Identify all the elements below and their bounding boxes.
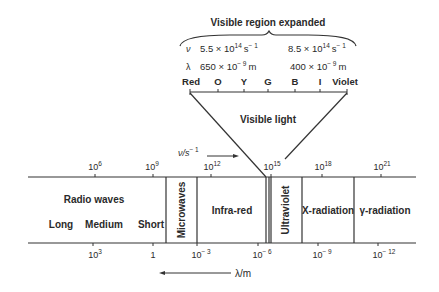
radio-sub-long: Long (49, 219, 73, 230)
wl-tick-1e-12: 10− 12 (373, 248, 396, 260)
color-label-violet: Violet (332, 76, 359, 87)
region-radio-waves: Radio waves (64, 194, 125, 205)
visible-scale (190, 89, 347, 95)
frequency-tick-labels: 106 109 1012 1015 1018 1021 (88, 160, 391, 172)
em-spectrum-diagram: Visible region expanded ν 5.5 × 1014s− 1… (0, 0, 439, 292)
region-microwaves: Microwaves (176, 181, 187, 238)
visible-funnel-left (190, 93, 266, 177)
freq-tick-1e9: 109 (145, 160, 159, 172)
lambda-red-value: 650 × 10− 9m (200, 60, 256, 72)
visible-funnel-right (285, 93, 347, 159)
wl-tick-1e3: 103 (88, 248, 102, 260)
region-xray: X-radiation (302, 205, 354, 216)
radio-sub-medium: Medium (85, 219, 123, 230)
nu-symbol: ν (186, 44, 191, 54)
freq-tick-1e18: 1018 (314, 160, 332, 172)
wl-tick-1e-9: 10− 9 (312, 248, 332, 260)
region-gamma: γ-radiation (359, 205, 410, 216)
color-label-orange: O (214, 76, 221, 87)
freq-tick-1e15: 1015 (263, 160, 281, 172)
wl-tick-1: 1 (150, 250, 155, 260)
wl-tick-1e-3: 10− 3 (191, 248, 211, 260)
wavelength-arrow-icon (159, 271, 231, 275)
nu-red-value: 5.5 × 1014s− 1 (200, 42, 258, 54)
visible-color-labels: Red O Y G B I Violet (182, 76, 359, 87)
freq-tick-1e6: 106 (88, 160, 102, 172)
frequency-axis-label: ν/s− 1 (178, 146, 199, 158)
wavelength-tick-labels: 103 1 10− 3 10− 6 10− 9 10− 12 (88, 248, 396, 260)
color-label-green: G (264, 76, 271, 87)
visible-expanded-heading: Visible region expanded (211, 17, 326, 28)
frequency-arrow-icon (207, 154, 239, 158)
freq-tick-1e21: 1021 (373, 160, 391, 172)
lambda-violet-value: 400 × 10− 9m (290, 60, 346, 72)
color-label-indigo: I (319, 76, 322, 87)
color-label-blue: B (292, 76, 299, 87)
radio-sub-short: Short (138, 219, 165, 230)
visible-light-label: Visible light (240, 114, 297, 125)
nu-violet-value: 8.5 × 1014s− 1 (288, 42, 346, 54)
region-infrared: Infra-red (212, 205, 253, 216)
wl-tick-1e-6: 10− 6 (252, 248, 272, 260)
freq-tick-1e12: 1012 (203, 160, 221, 172)
lambda-symbol: λ (186, 62, 191, 72)
region-ultraviolet: Ultraviolet (280, 185, 291, 235)
color-label-red: Red (182, 76, 200, 87)
wavelength-axis-label: λ/m (235, 268, 251, 279)
color-label-yellow: Y (241, 76, 248, 87)
